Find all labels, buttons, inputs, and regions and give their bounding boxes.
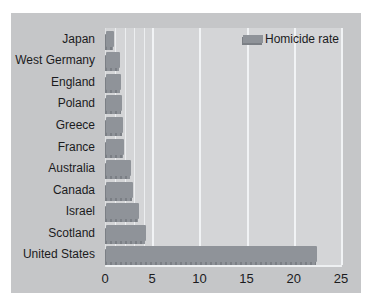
bar-scotland [106,225,146,241]
bar-england [106,74,121,90]
bar-israel [106,203,139,219]
y-axis-labels: JapanWest GermanyEnglandPolandGreeceFran… [11,28,100,265]
x-axis-labels: 0510152025 [105,271,341,289]
category-label-canada: Canada [11,179,100,201]
bar-canada [106,182,133,198]
category-label-poland: Poland [11,93,100,115]
legend-swatch-icon [243,35,263,43]
category-label-france: France [11,136,100,158]
gridline-25 [341,28,343,265]
x-tick-label-10: 10 [192,271,206,286]
bar-japan [106,31,114,47]
category-label-israel: Israel [11,200,100,222]
x-tick-label-15: 15 [239,271,253,286]
x-tick-label-0: 0 [101,271,108,286]
category-label-greece: Greece [11,114,100,136]
legend-label: Homicide rate [265,32,339,46]
gridline-15 [247,28,249,265]
gridline-10 [199,28,201,265]
category-label-australia: Australia [11,157,100,179]
gridline-5 [152,28,154,265]
gridline-20 [294,28,296,265]
category-label-scotland: Scotland [11,222,100,244]
x-tick-label-25: 25 [334,271,348,286]
x-tick-label-5: 5 [149,271,156,286]
bar-west-germany [106,52,120,68]
x-tick-label-20: 20 [287,271,301,286]
category-label-japan: Japan [11,28,100,50]
category-label-west-germany: West Germany [11,50,100,72]
bar-australia [106,160,131,176]
bar-poland [106,95,122,111]
category-label-united-states: United States [11,243,100,265]
chart-panel: JapanWest GermanyEnglandPolandGreeceFran… [11,13,361,293]
bar-france [106,139,124,155]
category-label-england: England [11,71,100,93]
bar-greece [106,117,123,133]
legend: Homicide rate [243,32,339,46]
plot-area: Homicide rate [105,28,342,267]
bar-united-states [106,246,317,262]
